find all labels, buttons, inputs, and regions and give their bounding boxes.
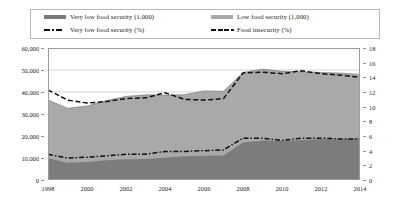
y-axis-left: 010,00020,00030,00040,00050,00060,000	[0, 48, 45, 180]
y2-axis-tick-mark	[363, 63, 366, 64]
y2-axis-tick-label: 18	[369, 45, 375, 52]
y2-axis-tick-mark	[363, 136, 366, 137]
y2-axis-tick-mark	[363, 180, 366, 181]
y2-axis-tick-label: 14	[369, 74, 375, 81]
x-axis-tick-label: 2012	[315, 185, 328, 192]
y-axis-tick-label: 40,000	[21, 89, 39, 96]
y2-axis-tick-label: 12	[369, 89, 375, 96]
plot-border	[48, 48, 360, 180]
y2-axis-tick-mark	[363, 121, 366, 122]
y-axis-tick-mark	[41, 48, 44, 49]
legend-label: Food insecurity (%)	[237, 26, 292, 33]
legend-item-low-food-security-thousands: Low food security (1,000)	[211, 13, 309, 20]
y-axis-tick-label: 60,000	[21, 45, 39, 52]
y2-axis-tick-label: 0	[369, 177, 372, 184]
area-swatch-icon	[44, 15, 66, 19]
x-axis-tick-label: 2002	[120, 185, 133, 192]
x-axis-tick-label: 2006	[198, 185, 211, 192]
x-axis-tick-label: 2008	[237, 185, 250, 192]
y-axis-tick-label: 0	[36, 177, 39, 184]
y-axis-tick-label: 20,000	[21, 133, 39, 140]
y2-axis-tick-mark	[363, 165, 366, 166]
y2-axis-tick-label: 8	[369, 118, 372, 125]
area-swatch-icon	[211, 15, 233, 19]
y2-axis-tick-mark	[363, 48, 366, 49]
x-axis-tick-label: 2014	[354, 185, 367, 192]
dash-dot-line-icon	[44, 27, 66, 33]
legend-item-food-insecurity-percent: Food insecurity (%)	[211, 26, 292, 33]
y-axis-tick-mark	[41, 70, 44, 71]
x-axis: 199820002002200420062008201020122014	[48, 182, 360, 196]
x-axis-tick-label: 2000	[81, 185, 94, 192]
y-axis-tick-label: 50,000	[21, 67, 39, 74]
y2-axis-tick-label: 4	[369, 147, 372, 154]
y-axis-tick-label: 10,000	[21, 155, 39, 162]
y-axis-tick-mark	[41, 92, 44, 93]
legend-label: Low food security (1,000)	[237, 13, 309, 20]
dashed-line-icon	[211, 27, 233, 33]
legend-item-very-low-food-security-percent: Very low food security (%)	[44, 26, 144, 33]
y2-axis-tick-label: 6	[369, 133, 372, 140]
y-axis-right: 024681012141618	[363, 48, 387, 180]
y-axis-tick-mark	[41, 180, 44, 181]
y-axis-tick-label: 30,000	[21, 111, 39, 118]
legend-label: Very low food security (%)	[70, 26, 144, 33]
y2-axis-tick-label: 2	[369, 162, 372, 169]
y2-axis-tick-label: 10	[369, 103, 375, 110]
chart-legend: Very low food security (1,000) Low food …	[30, 9, 380, 39]
legend-item-very-low-food-security-thousands: Very low food security (1,000)	[44, 13, 154, 20]
plot-area	[48, 48, 360, 180]
y-axis-tick-mark	[41, 114, 44, 115]
chart-figure: Very low food security (1,000) Low food …	[0, 0, 409, 216]
x-axis-tick-label: 2010	[276, 185, 289, 192]
x-axis-tick-label: 1998	[42, 185, 55, 192]
y2-axis-tick-mark	[363, 107, 366, 108]
y2-axis-tick-mark	[363, 77, 366, 78]
y2-axis-tick-mark	[363, 151, 366, 152]
y-axis-tick-mark	[41, 136, 44, 137]
legend-label: Very low food security (1,000)	[70, 13, 154, 20]
y2-axis-tick-label: 16	[369, 59, 375, 66]
y-axis-tick-mark	[41, 158, 44, 159]
x-axis-tick-label: 2004	[159, 185, 172, 192]
y2-axis-tick-mark	[363, 92, 366, 93]
